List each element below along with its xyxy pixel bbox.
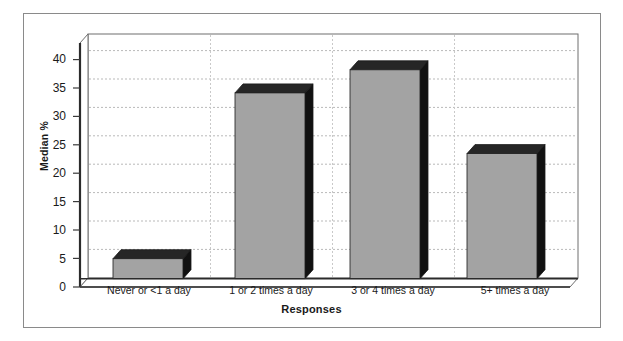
bar-1-or-2-times-a-day <box>235 84 313 279</box>
figure-container: Median % 0 5 10 15 20 25 30 35 40 Never … <box>0 0 623 341</box>
y-tick-label-10: 10 <box>40 224 66 236</box>
x-tick-label-1-or-2-times-a-day: 1 or 2 times a day <box>210 284 332 296</box>
x-tick-label-never-or-less-than-1-a-day: Never or <1 a day <box>88 284 210 296</box>
y-tick-label-15: 15 <box>40 196 66 208</box>
x-tick-label-3-or-4-times-a-day: 3 or 4 times a day <box>332 284 454 296</box>
y-tick-label-0: 0 <box>40 281 66 293</box>
bar-3-or-4-times-a-day <box>350 61 428 279</box>
y-tick-label-5: 5 <box>40 253 66 265</box>
y-tick-label-25: 25 <box>40 139 66 151</box>
axis-left-wall <box>80 34 88 287</box>
y-tick-label-40: 40 <box>40 53 66 65</box>
y-tick-label-30: 30 <box>40 110 66 122</box>
x-axis-title: Responses <box>0 303 623 315</box>
y-tick-label-20: 20 <box>40 167 66 179</box>
x-tick-label-5-plus-times-a-day: 5+ times a day <box>454 284 576 296</box>
y-tick-label-35: 35 <box>40 82 66 94</box>
bar-never-or-less-than-1-a-day <box>113 250 191 279</box>
bar-5-plus-times-a-day <box>467 145 545 279</box>
